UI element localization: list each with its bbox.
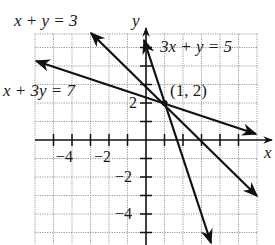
y-tick-label-neg2: −2 [115,169,132,185]
axes [35,28,272,245]
x-axis-label: x [264,144,272,161]
y-tick-label-neg4: −4 [115,206,132,222]
y-axis-label: y [132,12,140,29]
x-tick-label-neg2: −2 [94,149,111,165]
label-x-plus-3y-eq-7: x + 3y = 7 [3,82,75,99]
label-3x-plus-y-eq-5: 3x + y = 5 [160,38,232,55]
label-x-plus-y-eq-3: x + y = 3 [14,12,78,29]
label-intersection-point: (1, 2) [170,82,207,99]
x-tick-label-neg4: −4 [56,149,73,165]
graph-canvas [0,0,275,245]
intersection-point [162,100,168,106]
y-tick-label-2: 2 [129,95,137,111]
